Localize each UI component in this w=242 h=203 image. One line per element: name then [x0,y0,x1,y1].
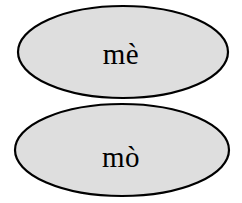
lower-region-label: mò [0,143,242,172]
upper-region-label: mè [0,40,242,69]
diagram-canvas: mè mò [0,0,242,203]
